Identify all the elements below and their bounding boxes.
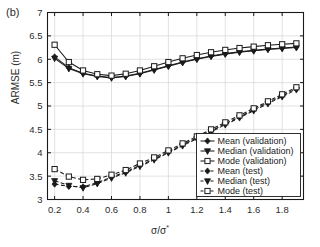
x-axis-label-text: σ/σ: [151, 225, 166, 236]
marker-square-open: [223, 120, 228, 125]
marker-triangle-down-filled: [80, 186, 86, 192]
marker-square-open: [265, 99, 270, 104]
marker-square-open: [294, 85, 299, 90]
x-tick-label: 0.8: [133, 204, 146, 215]
x-tick-label: 0.2: [48, 204, 61, 215]
legend-label[interactable]: Median (validation): [218, 146, 294, 156]
marker-square-open: [152, 64, 157, 69]
marker-square-open: [251, 44, 256, 49]
marker-square-open: [52, 42, 57, 47]
x-tick-label: 0.6: [105, 204, 118, 215]
marker-square-open: [123, 167, 128, 172]
x-tick-label: 1: [166, 204, 171, 215]
legend-label[interactable]: Mode (test): [218, 186, 264, 196]
y-tick-label: 3.5: [29, 171, 42, 182]
marker-square-open: [52, 167, 57, 172]
marker-square-open: [180, 56, 185, 61]
marker-square-open: [152, 155, 157, 160]
marker-square-open: [205, 158, 210, 163]
y-tick-label: 6: [37, 54, 42, 65]
marker-square-open: [109, 73, 114, 78]
x-tick-label: 0.4: [76, 204, 89, 215]
marker-square-open: [166, 59, 171, 64]
y-tick-label: 4: [37, 147, 42, 158]
marker-square-open: [80, 177, 85, 182]
figure-container: (b) ARMSE (m) σ/σ* 0.20.40.60.811.21.41.…: [0, 0, 320, 247]
marker-square-open: [208, 50, 213, 55]
marker-square-open: [265, 43, 270, 48]
x-axis-label-superscript: *: [166, 224, 169, 231]
x-axis-label: σ/σ*: [0, 224, 320, 236]
marker-square-open: [280, 42, 285, 47]
marker-square-open: [95, 176, 100, 181]
marker-square-open: [208, 127, 213, 132]
legend-label[interactable]: Mean (validation): [218, 136, 287, 146]
marker-square-open: [237, 113, 242, 118]
legend-label[interactable]: Median (test): [218, 176, 271, 186]
y-tick-label: 3: [37, 194, 42, 205]
y-tick-label: 5: [37, 100, 42, 111]
marker-square-open: [109, 172, 114, 177]
x-tick-label: 1.8: [276, 204, 289, 215]
marker-square-open: [137, 161, 142, 166]
marker-square-open: [66, 174, 71, 179]
x-tick-label: 1.4: [219, 204, 232, 215]
marker-square-open: [66, 59, 71, 64]
chart-plot-area: 0.20.40.60.811.21.41.61.833.544.555.566.…: [0, 0, 320, 247]
marker-square-open: [280, 92, 285, 97]
marker-square-open: [166, 148, 171, 153]
marker-square-open: [180, 141, 185, 146]
marker-square-open: [223, 47, 228, 52]
marker-square-open: [137, 68, 142, 73]
marker-square-open: [251, 106, 256, 111]
marker-square-open: [237, 45, 242, 50]
marker-square-open: [194, 52, 199, 57]
marker-square-open: [205, 188, 210, 193]
y-axis-label: ARMSE (m): [10, 36, 21, 120]
legend-label[interactable]: Mean (test): [218, 166, 264, 176]
y-tick-label: 7: [37, 7, 42, 18]
legend-label[interactable]: Mode (validation): [218, 156, 287, 166]
y-tick-label: 4.5: [29, 124, 42, 135]
marker-square-open: [80, 68, 85, 73]
y-tick-label: 6.5: [29, 30, 42, 41]
panel-label: (b): [6, 6, 19, 18]
marker-square-open: [294, 41, 299, 46]
marker-square-open: [123, 71, 128, 76]
series-line: [55, 48, 297, 78]
x-tick-label: 1.2: [190, 204, 203, 215]
marker-square-open: [95, 72, 100, 77]
x-tick-label: 1.6: [247, 204, 260, 215]
y-tick-label: 5.5: [29, 77, 42, 88]
